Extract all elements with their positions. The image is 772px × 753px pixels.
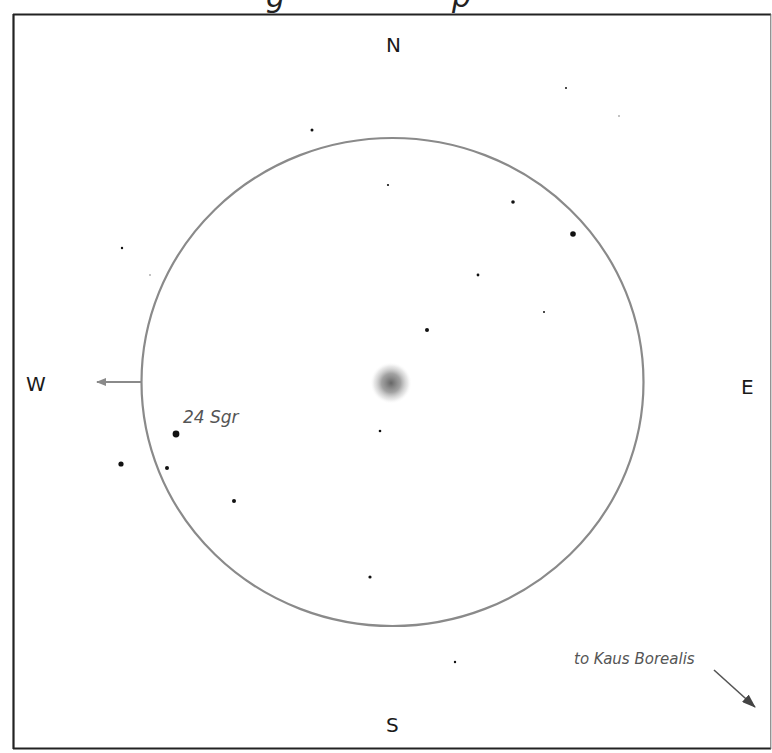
direction-east: E: [741, 377, 754, 397]
star: [511, 200, 515, 204]
star-24-sgr: [173, 431, 180, 438]
star: [121, 247, 123, 249]
direction-south: S: [386, 715, 399, 735]
star: [379, 430, 382, 433]
star: [387, 184, 389, 186]
star: [477, 274, 480, 277]
star: [311, 129, 314, 132]
star: [565, 87, 567, 89]
star: [149, 274, 151, 276]
star: [118, 461, 123, 466]
star: [165, 466, 169, 470]
direction-west: W: [26, 374, 46, 394]
kaus-borealis-arrow-icon: [714, 670, 755, 707]
star: [232, 499, 236, 503]
label-24-sgr: 24 Sgr: [183, 409, 239, 426]
star: [425, 328, 429, 332]
star: [543, 311, 545, 313]
star: [570, 231, 576, 237]
star: [368, 575, 371, 578]
direction-north: N: [386, 35, 401, 55]
star: [454, 661, 456, 663]
nebula-target: [370, 362, 412, 404]
finder-chart: [0, 0, 772, 753]
star: [618, 115, 620, 117]
label-to-kaus-borealis: to Kaus Borealis: [574, 652, 695, 667]
